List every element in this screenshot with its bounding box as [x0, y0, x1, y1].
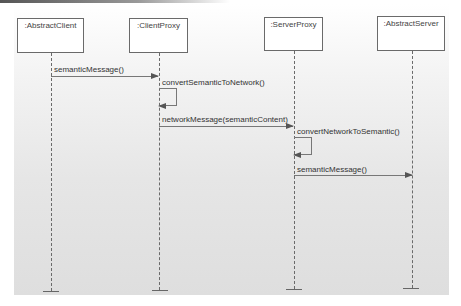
- arrowhead-icon: [286, 123, 294, 129]
- self-message-convert-semantic-to-network[interactable]: [159, 88, 177, 106]
- participant-label: :ClientProxy: [137, 21, 180, 30]
- lifeline-abstract-server: [412, 51, 413, 288]
- lifeline-end-client-proxy: [152, 290, 168, 291]
- arrowhead-icon: [405, 172, 413, 178]
- participant-abstract-server[interactable]: :AbstractServer: [377, 16, 445, 51]
- message-arrow-network-message[interactable]: [159, 126, 293, 127]
- message-label: semanticMessage(): [297, 165, 367, 174]
- participant-server-proxy[interactable]: :ServerProxy: [264, 17, 323, 51]
- self-message-convert-network-to-semantic[interactable]: [294, 137, 312, 155]
- lifeline-end-server-proxy: [286, 289, 302, 290]
- message-arrow-semantic-message-2[interactable]: [294, 175, 412, 176]
- message-label: convertSemanticToNetwork(): [162, 78, 265, 87]
- participant-client-proxy[interactable]: :ClientProxy: [129, 18, 188, 53]
- lifeline-end-abstract-server: [403, 288, 419, 289]
- lifeline-abstract-client: [51, 53, 52, 291]
- message-label: convertNetworkToSemantic(): [297, 127, 400, 136]
- message-label: semanticMessage(): [54, 65, 124, 74]
- message-label: networkMessage(semanticContent): [162, 115, 288, 124]
- lifeline-server-proxy: [294, 51, 295, 289]
- participant-label: :AbstractClient: [24, 21, 76, 30]
- message-arrow-semantic-message-1[interactable]: [51, 76, 158, 77]
- arrowhead-icon: [293, 152, 301, 158]
- arrowhead-icon: [151, 73, 159, 79]
- participant-abstract-client[interactable]: :AbstractClient: [17, 18, 84, 53]
- arrowhead-icon: [158, 103, 166, 109]
- lifeline-end-abstract-client: [43, 291, 59, 292]
- top-edge-bar: [0, 0, 230, 3]
- participant-label: :ServerProxy: [270, 20, 316, 29]
- participant-label: :AbstractServer: [383, 19, 438, 28]
